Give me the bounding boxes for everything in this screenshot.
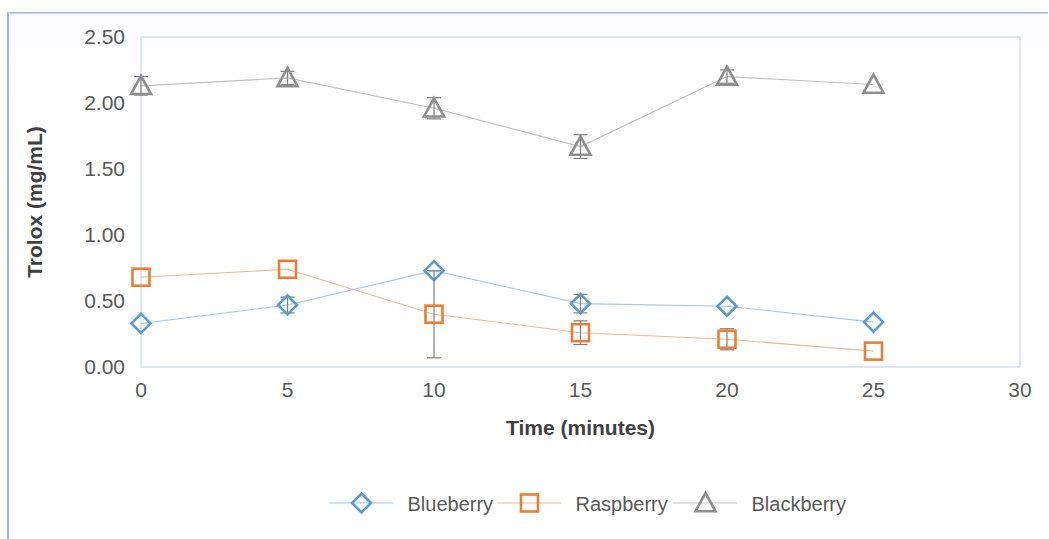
series-blackberry bbox=[131, 67, 884, 159]
triangle-icon bbox=[696, 493, 716, 511]
y-axis-tick-label: 2.50 bbox=[84, 25, 125, 48]
x-axis-title: Time (minutes) bbox=[506, 416, 655, 439]
legend-item-blackberry[interactable]: Blackberry bbox=[674, 493, 846, 515]
y-axis-tick-label: 0.00 bbox=[84, 355, 125, 378]
x-axis-tick-label: 10 bbox=[422, 378, 445, 401]
y-axis-tick-label: 2.00 bbox=[84, 91, 125, 114]
x-axis-tick-label: 0 bbox=[135, 378, 147, 401]
x-axis-tick-label: 5 bbox=[282, 378, 294, 401]
legend-item-raspberry[interactable]: Raspberry bbox=[498, 493, 668, 515]
y-axis-tick-label: 0.50 bbox=[84, 289, 125, 312]
error-bar bbox=[427, 271, 441, 358]
legend-item-label: Raspberry bbox=[576, 493, 668, 515]
data-point-marker-triangle bbox=[696, 493, 716, 511]
x-axis-tick-label: 15 bbox=[569, 378, 592, 401]
chart-canvas: 0.000.501.001.502.002.50051015202530Time… bbox=[0, 0, 1049, 539]
x-axis-tick-label: 25 bbox=[862, 378, 885, 401]
plot-area-border bbox=[141, 37, 1020, 367]
chart-figure: 0.000.501.001.502.002.50051015202530Time… bbox=[0, 0, 1049, 539]
y-axis-title: Trolox (mg/mL) bbox=[23, 126, 46, 278]
legend-item-label: Blueberry bbox=[408, 493, 494, 515]
legend-item-blueberry[interactable]: Blueberry bbox=[330, 493, 494, 515]
y-axis-title-group: Trolox (mg/mL) bbox=[23, 126, 46, 278]
legend-item-label: Blackberry bbox=[752, 493, 846, 515]
y-axis-tick-label: 1.50 bbox=[84, 157, 125, 180]
series-line bbox=[141, 271, 874, 324]
series-line bbox=[141, 77, 874, 147]
x-axis-tick-label: 30 bbox=[1008, 378, 1031, 401]
x-axis-tick-label: 20 bbox=[715, 378, 738, 401]
y-axis-tick-label: 1.00 bbox=[84, 223, 125, 246]
